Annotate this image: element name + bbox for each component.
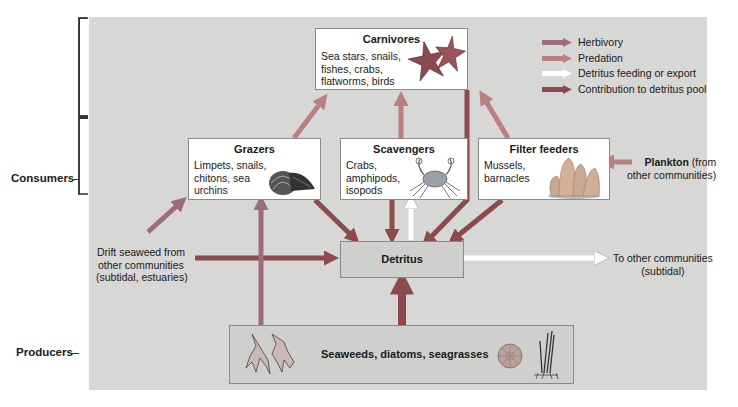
- filter-feeders-desc: Mussels, barnacles: [484, 159, 530, 184]
- sea-star-icon: [406, 33, 468, 89]
- plankton-bold: Plankton: [645, 156, 689, 168]
- detritus-title: Detritus: [341, 253, 463, 265]
- grazers-title: Grazers: [189, 143, 320, 155]
- seaweed-icon: [242, 332, 308, 378]
- barnacle-icon: [541, 156, 607, 200]
- predation-arrow-icon: [542, 54, 572, 63]
- producers-node: Seaweeds, diatoms, seagrasses: [229, 325, 574, 384]
- filter-feeders-node: Filter feeders Mussels, barnacles: [478, 138, 610, 200]
- producers-title: Seaweeds, diatoms, seagrasses: [321, 348, 489, 360]
- legend-item-predation: Predation: [542, 52, 623, 64]
- carnivores-desc: Sea stars, snails, fishes, crabs, flatwo…: [321, 50, 401, 88]
- scavengers-title: Scavengers: [341, 143, 467, 155]
- drift-seaweed-label: Drift seaweed from other communities (su…: [96, 246, 188, 284]
- export-label: To other communities (subtidal): [613, 252, 713, 277]
- chiton-shell-icon: [261, 165, 319, 197]
- scavengers-desc: Crabs, amphipods, isopods: [346, 159, 400, 197]
- filter-feeders-title: Filter feeders: [479, 143, 609, 155]
- contribution-arrow-icon: [542, 85, 572, 94]
- detritus-feeding-arrow-icon: [542, 69, 572, 78]
- legend-item-detritus-feeding: Detritus feeding or export: [542, 67, 696, 79]
- carnivores-node: Carnivores Sea stars, snails, fishes, cr…: [315, 28, 468, 90]
- seagrass-icon: [530, 329, 564, 381]
- crab-icon: [404, 157, 466, 199]
- herbivory-arrow-icon: [542, 38, 572, 47]
- legend-item-herbivory: Herbivory: [542, 36, 623, 48]
- legend-item-contribution: Contribution to detritus pool: [542, 83, 706, 95]
- scavengers-node: Scavengers Crabs, amphipods, isopods: [340, 138, 468, 200]
- grazers-desc: Limpets, snails, chitons, sea urchins: [194, 159, 266, 197]
- detritus-node: Detritus: [340, 241, 464, 278]
- diatom-icon: [497, 343, 525, 371]
- grazers-node: Grazers Limpets, snails, chitons, sea ur…: [188, 138, 321, 200]
- plankton-label: Plankton (from other communities): [637, 156, 716, 181]
